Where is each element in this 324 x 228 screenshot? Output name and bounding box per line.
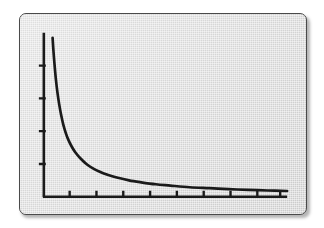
plot-canvas bbox=[20, 14, 306, 215]
plot-panel bbox=[19, 13, 307, 215]
axes-group bbox=[43, 33, 287, 197]
data-curve-reciprocal bbox=[53, 38, 288, 191]
figure-root bbox=[0, 0, 324, 228]
